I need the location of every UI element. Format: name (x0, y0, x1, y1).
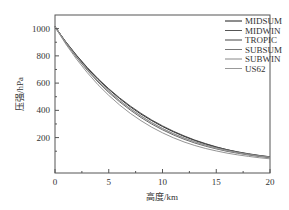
series-line-midwin (55, 26, 270, 158)
legend-label-subwin: SUBWIN (245, 54, 281, 64)
x-tick-label: 5 (107, 177, 112, 187)
legend-label-subsum: SUBSUM (245, 45, 282, 55)
legend-label-tropic: TROPIC (245, 35, 277, 45)
legend: MIDSUMMIDWINTROPICSUBSUMSUBWINUS62 (225, 16, 282, 74)
y-tick-label: 400 (37, 105, 51, 115)
x-tick-label: 20 (266, 177, 276, 187)
legend-label-midwin: MIDWIN (245, 26, 281, 36)
series-line-tropic (55, 27, 270, 157)
y-axis-title: 压强/hPa (15, 77, 25, 111)
legend-label-midsum: MIDSUM (245, 16, 282, 26)
x-tick-label: 10 (158, 177, 168, 187)
x-tick-label: 15 (212, 177, 222, 187)
series-line-us62 (55, 27, 270, 157)
y-tick-label: 600 (37, 78, 51, 88)
series-line-subwin (55, 27, 270, 159)
plot-area: 05101520 2004006008001000 (32, 15, 275, 187)
pressure-altitude-chart: 05101520 2004006008001000 高度/km 压强/hPa M… (0, 0, 289, 210)
series-line-midsum (55, 27, 270, 157)
data-curves (55, 26, 270, 159)
x-axis-ticks: 05101520 (53, 169, 275, 187)
legend-label-us62: US62 (245, 64, 266, 74)
y-tick-label: 200 (37, 133, 51, 143)
y-tick-label: 800 (37, 51, 51, 61)
x-tick-label: 0 (53, 177, 58, 187)
y-tick-label: 1000 (32, 24, 51, 34)
x-axis-title: 高度/km (146, 191, 178, 202)
series-line-subsum (55, 27, 270, 157)
plot-frame (55, 15, 270, 173)
